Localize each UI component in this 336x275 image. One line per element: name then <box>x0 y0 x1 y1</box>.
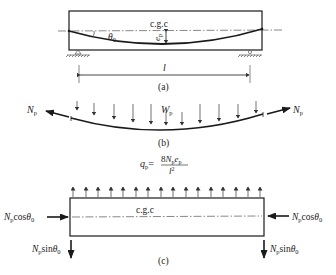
cgc-label-c: c.g.c <box>136 205 154 215</box>
right-axial-label: Npcosθ0 <box>291 212 322 223</box>
equivalent-load-formula: qp= 8Npep l2 <box>140 154 188 176</box>
panel-a: c.g.c θ0 ep l (a) <box>58 11 282 93</box>
np-left-arrow <box>46 111 69 117</box>
tendon-profile <box>69 29 262 44</box>
left-shear-label: Npsinθ0 <box>31 244 61 255</box>
wp-label: Wp <box>161 104 173 116</box>
np-right-arrow <box>267 108 290 114</box>
prestress-diagram: c.g.c θ0 ep l (a) <box>0 0 336 275</box>
span-label: l <box>163 62 166 73</box>
right-support-icon <box>238 50 262 57</box>
tendon-free-body <box>71 114 263 130</box>
ep-label: ep <box>152 34 163 41</box>
np-right-label: Np <box>292 104 303 116</box>
svg-text:8Npep: 8Npep <box>161 154 182 165</box>
cgc-centerline <box>58 30 282 31</box>
theta0-label: θ0 <box>108 32 116 43</box>
np-left-label: Np <box>26 104 37 116</box>
panel-b: Wp Np Np (b) <box>26 101 303 149</box>
angle-arc <box>93 31 94 36</box>
equivalent-load-arrows-up <box>73 187 260 197</box>
caption-c: (c) <box>158 256 169 267</box>
svg-text:l2: l2 <box>169 166 175 176</box>
left-support-icon <box>66 50 90 57</box>
right-shear-label: Npsinθ0 <box>269 244 299 255</box>
cgc-centerline-c <box>72 216 262 217</box>
svg-text:qp=: qp= <box>140 158 154 170</box>
left-axial-label: Npcosθ0 <box>3 212 34 223</box>
caption-a: (a) <box>158 82 169 93</box>
cgc-label: c.g.c <box>150 19 168 29</box>
caption-b: (b) <box>158 138 169 149</box>
panel-c: qp= 8Npep l2 c.g.c N <box>3 154 322 267</box>
